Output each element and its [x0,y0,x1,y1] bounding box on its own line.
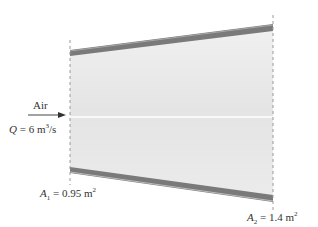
area-unit-exp: 2 [294,210,298,218]
flow-symbol: Q [9,123,17,135]
flow-rate-label: Q = 6 m3/s [9,124,56,135]
area-unit-exp: 2 [93,186,97,194]
arrow-head-icon [58,112,66,118]
area-unit: m [84,187,93,199]
inlet-area-label: A1 = 0.95 m2 [40,188,96,199]
equals-sign: = [20,123,26,135]
outlet-area-label: A2 = 1.4 m2 [247,212,298,223]
area-subscript: 2 [254,218,258,226]
flow-unit-tail: /s [49,123,56,135]
duct-interior [70,30,273,196]
flow-value: 6 [29,123,35,135]
air-text: Air [33,99,48,111]
equals-sign: = [53,187,59,199]
inlet-label: Air [33,100,48,111]
area-symbol: A [40,187,47,199]
inlet-area-value: 0.95 [62,187,81,199]
area-unit: m [285,211,294,223]
equals-sign: = [260,211,266,223]
area-symbol: A [247,211,254,223]
area-subscript: 1 [47,194,51,202]
outlet-area-value: 1.4 [269,211,283,223]
